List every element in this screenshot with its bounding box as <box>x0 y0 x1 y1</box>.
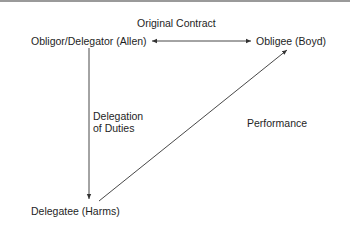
performance-label: Performance <box>247 117 307 129</box>
delegatee-node: Delegatee (Harms) <box>31 205 120 217</box>
obligee-node: Obligee (Boyd) <box>256 35 326 47</box>
obligor-node: Obligor/Delegator (Allen) <box>31 35 147 47</box>
delegation-label-line2: of Duties <box>93 122 134 134</box>
delegation-label-line1: Delegation <box>93 110 143 122</box>
original-contract-label: Original Contract <box>137 17 216 29</box>
